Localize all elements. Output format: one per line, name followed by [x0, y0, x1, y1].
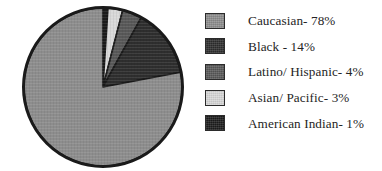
legend-item[interactable]: Black - 14% — [205, 34, 380, 60]
legend-item[interactable]: American Indian- 1% — [205, 110, 380, 136]
legend-swatch-american-indian — [205, 115, 225, 131]
legend: Caucasian- 78%Black - 14%Latino/ Hispani… — [205, 8, 380, 158]
legend-swatch-latino-hispanic — [205, 64, 225, 80]
legend-item-label: Caucasian- 78% — [248, 14, 335, 27]
legend-item-label: Latino/ Hispanic- 4% — [248, 65, 364, 78]
legend-item-label: Black - 14% — [248, 40, 315, 53]
legend-item[interactable]: Latino/ Hispanic- 4% — [205, 59, 380, 85]
legend-swatch-black — [205, 38, 225, 54]
legend-item[interactable]: Asian/ Pacific- 3% — [205, 85, 380, 111]
legend-swatch-caucasian — [205, 13, 225, 29]
legend-item[interactable]: Caucasian- 78% — [205, 8, 380, 34]
pie-chart-figure: Caucasian- 78%Black - 14%Latino/ Hispani… — [0, 0, 382, 171]
pie-chart-graphic — [20, 5, 186, 169]
legend-item-label: American Indian- 1% — [248, 117, 364, 130]
legend-swatch-asian-pacific — [205, 90, 225, 106]
pie-svg — [20, 5, 186, 169]
legend-item-label: Asian/ Pacific- 3% — [248, 91, 349, 104]
